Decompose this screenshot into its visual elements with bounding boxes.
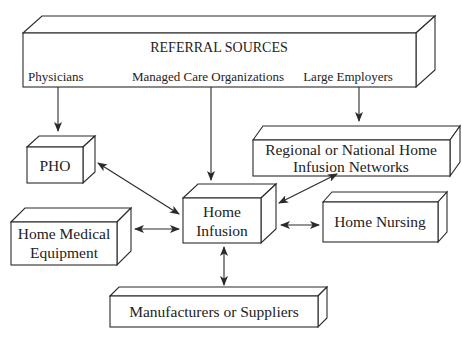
home-medical-line2: Equipment <box>30 244 99 261</box>
home-infusion-diagram: REFERRAL SOURCES Physicians Managed Care… <box>0 0 462 340</box>
referral-title: REFERRAL SOURCES <box>150 40 288 55</box>
manufacturers-label: Manufacturers or Suppliers <box>129 303 299 320</box>
home-nursing-label: Home Nursing <box>334 213 426 230</box>
arrow-pho-home-infusion <box>98 163 179 214</box>
home-medical-equipment-box: Home Medical Equipment <box>11 208 131 265</box>
home-nursing-box: Home Nursing <box>323 192 447 242</box>
home-infusion-box: Home Infusion <box>183 184 276 243</box>
pho-label: PHO <box>39 157 70 174</box>
home-infusion-line1: Home <box>203 203 241 220</box>
source-physicians: Physicians <box>28 69 84 84</box>
regional-label-line2: Infusion Networks <box>293 158 409 175</box>
regional-networks-box: Regional or National Home Infusion Netwo… <box>253 126 460 176</box>
pho-box: PHO <box>27 136 95 183</box>
manufacturers-box: Manufacturers or Suppliers <box>110 287 327 327</box>
home-infusion-line2: Infusion <box>196 222 248 239</box>
referral-sources-box: REFERRAL SOURCES Physicians Managed Care… <box>23 16 435 87</box>
source-managed-care: Managed Care Organizations <box>132 69 284 84</box>
source-large-employers: Large Employers <box>303 69 393 84</box>
regional-label-line1: Regional or National Home <box>265 141 437 158</box>
home-medical-line1: Home Medical <box>18 225 111 242</box>
